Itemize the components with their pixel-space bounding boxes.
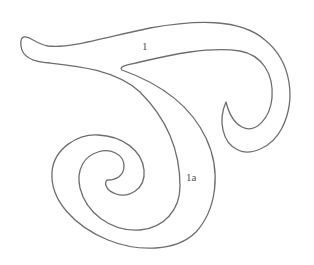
curve-label-1a: 1a	[186, 171, 197, 183]
french-curve-outline	[21, 22, 290, 248]
curve-label-1: 1	[142, 40, 148, 52]
french-curve-diagram: 1 1a	[0, 0, 314, 265]
